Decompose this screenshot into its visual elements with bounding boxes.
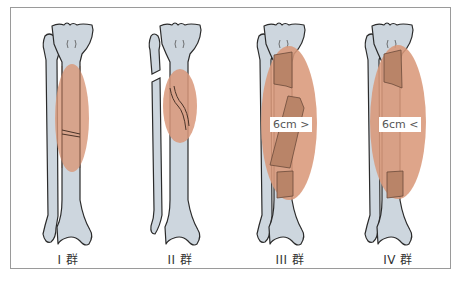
group-label-3: III 群 <box>276 250 305 267</box>
fibula-icon <box>149 34 160 74</box>
bone-group-4 <box>365 23 426 245</box>
group-label-4: IV 群 <box>383 250 413 267</box>
distal-fragment <box>387 171 403 198</box>
group-label-1: I 群 <box>58 250 79 267</box>
bone-group-1 <box>43 23 93 245</box>
bone-group-2 <box>149 23 201 245</box>
length-label-group-3: 6cm > <box>270 117 312 132</box>
bone-group-3 <box>257 23 317 245</box>
injury-zone <box>163 69 197 143</box>
proximal-fragment <box>384 50 402 88</box>
group-label-2: II 群 <box>168 250 193 267</box>
injury-zone <box>55 64 89 172</box>
distal-fragment <box>277 171 293 198</box>
proximal-fragment <box>274 52 292 88</box>
fibula-fragment-icon <box>151 78 162 234</box>
length-label-group-4: 6cm < <box>379 117 421 132</box>
fracture-diagram <box>0 0 460 286</box>
